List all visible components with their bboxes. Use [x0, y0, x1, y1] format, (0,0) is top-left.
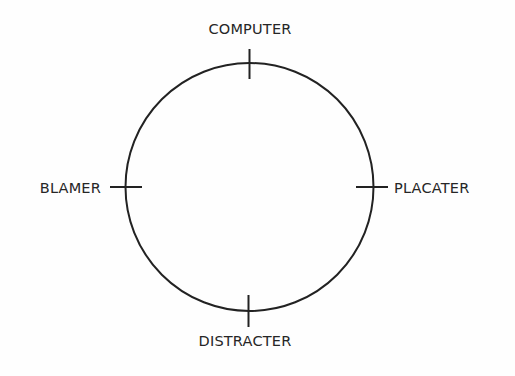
label-distracter: DISTRACTER [185, 333, 305, 349]
label-blamer: BLAMER [31, 180, 101, 196]
label-computer: COMPUTER [196, 21, 304, 37]
label-placater: PLACATER [394, 180, 490, 196]
stance-circle [126, 63, 374, 311]
communication-stances-diagram: COMPUTER BLAMER PLACATER DISTRACTER [0, 0, 515, 376]
